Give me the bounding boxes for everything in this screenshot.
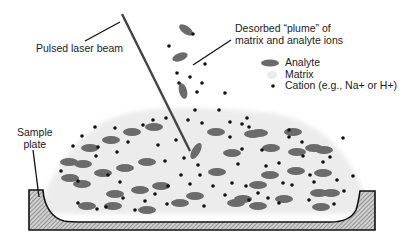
cation-dot — [200, 121, 204, 125]
analyte-particle — [314, 169, 332, 177]
cation-dot — [245, 116, 249, 120]
cation-dot — [188, 182, 192, 186]
cation-dot — [165, 202, 169, 206]
cation-dot — [266, 196, 270, 200]
cation-dot — [113, 126, 117, 130]
cation-dot — [211, 184, 215, 188]
analyte-particle — [186, 192, 204, 200]
cation-dot — [96, 145, 100, 149]
cation-dot — [240, 122, 244, 126]
legend-analyte-label: Analyte — [285, 57, 320, 68]
cation-dot — [277, 161, 281, 165]
cation-dot — [228, 135, 232, 139]
cation-dot — [177, 81, 181, 85]
plume-label-line1: Desorbed “plume” of — [235, 22, 343, 34]
analyte-particle — [131, 186, 149, 194]
analyte-particle — [138, 158, 156, 166]
maldi-diagram: Pulsed laser beam Desorbed “plume” of ma… — [0, 0, 411, 242]
analyte-particle — [312, 203, 330, 211]
legend-cation-label: Cation (e.g., Na+ or H+) — [285, 80, 397, 91]
cation-dot — [188, 75, 192, 79]
analyte-particle — [116, 164, 134, 172]
cation-dot — [247, 198, 251, 202]
cation-dot — [164, 116, 168, 120]
analyte-particle — [177, 82, 189, 100]
cation-dot — [240, 147, 244, 151]
cation-dot — [342, 189, 346, 193]
analyte-particle — [81, 144, 99, 152]
cation-dot — [133, 208, 137, 212]
cation-dot — [76, 179, 80, 183]
cation-dot — [118, 180, 122, 184]
cation-dot — [71, 144, 75, 148]
analyte-particle — [315, 146, 333, 154]
cation-dot — [307, 198, 311, 202]
analyte-particle — [138, 206, 156, 214]
cation-dot — [312, 180, 316, 184]
analyte-particle — [322, 189, 340, 197]
cation-dot — [244, 184, 248, 188]
cation-dot — [247, 125, 251, 129]
cation-dot — [59, 169, 63, 173]
cation-dot — [230, 181, 234, 185]
plume-label-line2: matrix and analyte ions — [235, 34, 343, 46]
matrix-mound — [40, 108, 368, 214]
analyte-particle — [145, 123, 163, 131]
cation-dot — [93, 125, 97, 129]
cation-dot — [217, 108, 221, 112]
analyte-particle — [106, 190, 124, 198]
cation-dot — [76, 201, 80, 205]
cation-dot — [106, 173, 110, 177]
cation-dot — [186, 118, 190, 122]
cation-dot — [281, 181, 285, 185]
analyte-particle — [244, 130, 262, 138]
cation-dot — [179, 173, 183, 177]
cation-dot — [175, 71, 179, 75]
cation-dot — [328, 155, 332, 159]
cation-dot — [141, 123, 145, 127]
cation-dot — [236, 162, 240, 166]
cation-dot — [287, 135, 291, 139]
cation-dot — [228, 120, 232, 124]
cation-dot — [287, 128, 291, 132]
cation-dot — [126, 140, 130, 144]
diagram-canvas — [0, 0, 411, 242]
cation-dot — [156, 143, 160, 147]
plate-label-line2: plate — [17, 138, 53, 150]
cation-dot — [202, 204, 206, 208]
cation-dot — [290, 183, 294, 187]
plate-label-line1: Sample — [17, 126, 53, 138]
analyte-particle — [207, 128, 225, 136]
cation-dot — [332, 202, 336, 206]
analyte-particle — [287, 167, 305, 175]
cation-dot — [203, 62, 207, 66]
cation-dot — [195, 90, 199, 94]
analyte-particle — [73, 180, 91, 188]
cation-dot — [256, 191, 260, 195]
analyte-particle — [171, 199, 189, 207]
analyte-particle — [261, 171, 279, 179]
cation-dot — [121, 196, 125, 200]
analyte-particle — [284, 128, 302, 136]
cation-dot — [94, 154, 98, 158]
cation-dot — [163, 159, 167, 163]
cation-dot — [80, 134, 84, 138]
cation-dot — [104, 205, 108, 209]
analyte-particle — [249, 202, 267, 210]
legend-cation-icon — [271, 84, 275, 88]
analyte-particle — [208, 168, 226, 176]
analyte-particle — [102, 136, 120, 144]
cation-dot — [264, 164, 268, 168]
cation-dot — [153, 192, 157, 196]
analyte-particle — [249, 181, 267, 189]
legend-symbols — [261, 59, 279, 87]
cation-dot — [166, 184, 170, 188]
cation-dot — [191, 32, 195, 36]
cation-dot — [223, 91, 227, 95]
cation-dot — [193, 108, 197, 112]
legend-matrix-icon — [267, 71, 277, 79]
cation-dot — [151, 118, 155, 122]
legend-analyte-icon — [261, 59, 279, 66]
analyte-particle — [60, 158, 78, 166]
cation-dot — [301, 154, 305, 158]
